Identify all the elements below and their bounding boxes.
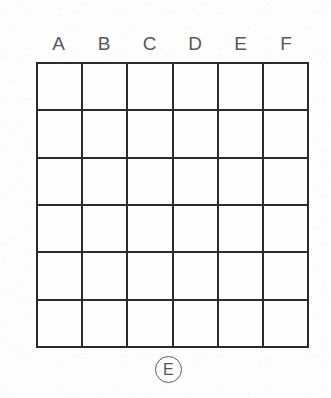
grid-cell[interactable]: [174, 253, 219, 300]
circled-letter-marker: E: [155, 356, 182, 383]
grid-cell[interactable]: [38, 64, 83, 111]
grid-cell[interactable]: [128, 111, 173, 158]
grid-cell[interactable]: [219, 206, 264, 253]
grid-cell[interactable]: [264, 64, 309, 111]
grid-cell[interactable]: [264, 206, 309, 253]
column-header-row: A B C D E F: [36, 30, 309, 56]
figure-page: A B C D E F: [0, 0, 331, 398]
grid-cell[interactable]: [38, 159, 83, 206]
grid-cell[interactable]: [83, 64, 128, 111]
grid-cell[interactable]: [83, 301, 128, 348]
grid-cell[interactable]: [264, 159, 309, 206]
grid-cell[interactable]: [128, 64, 173, 111]
grid-cell[interactable]: [219, 64, 264, 111]
grid-cell[interactable]: [174, 159, 219, 206]
grid-cell[interactable]: [219, 159, 264, 206]
column-header-b: B: [82, 30, 128, 56]
grid-cell[interactable]: [83, 111, 128, 158]
grid-cell[interactable]: [128, 301, 173, 348]
column-header-c: C: [127, 30, 173, 56]
column-header-f: F: [264, 30, 310, 56]
grid-cell[interactable]: [219, 253, 264, 300]
grid-cell[interactable]: [264, 253, 309, 300]
grid-cell[interactable]: [83, 206, 128, 253]
grid-cell[interactable]: [128, 253, 173, 300]
grid-cell[interactable]: [38, 253, 83, 300]
grid-cell[interactable]: [174, 64, 219, 111]
circled-letter-text: E: [163, 362, 174, 378]
grid-cell[interactable]: [83, 159, 128, 206]
grid-cell[interactable]: [264, 301, 309, 348]
grid-cell[interactable]: [219, 301, 264, 348]
grid-cell[interactable]: [128, 159, 173, 206]
grid-cell[interactable]: [38, 111, 83, 158]
grid-cell[interactable]: [174, 301, 219, 348]
grid-cell[interactable]: [38, 301, 83, 348]
grid-cell[interactable]: [128, 206, 173, 253]
column-header-d: D: [173, 30, 219, 56]
column-header-a: A: [36, 30, 82, 56]
column-header-e: E: [218, 30, 264, 56]
grid-cell[interactable]: [219, 111, 264, 158]
grid-cell[interactable]: [174, 111, 219, 158]
grid-cell[interactable]: [174, 206, 219, 253]
grid-table: [36, 62, 309, 348]
grid-cell[interactable]: [83, 253, 128, 300]
grid-cell[interactable]: [264, 111, 309, 158]
grid-cell[interactable]: [38, 206, 83, 253]
